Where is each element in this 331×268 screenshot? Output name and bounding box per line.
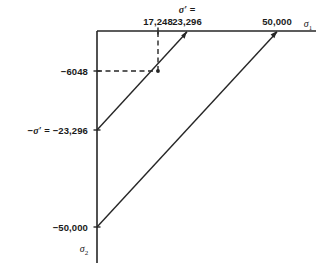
sigma-prime-value-label: 23,296 — [172, 16, 202, 27]
stress-diagram-figure: σ′ = 23,296 17,248 50,000 σ1 −6048 −σ′ =… — [0, 0, 331, 268]
load-x-label: 17,248 — [143, 16, 173, 27]
inner-failure-line — [97, 32, 187, 130]
sigma1-axis-label: σ1 — [304, 18, 313, 32]
operating-point-marker — [156, 69, 160, 73]
sigma2-axis-label: σ2 — [80, 243, 89, 257]
sigma-prime-equals-label: σ′ = — [179, 4, 196, 15]
load-y-label: −6048 — [61, 66, 88, 77]
tensile-limit-label: 50,000 — [262, 16, 292, 27]
compressive-limit-label: −50,000 — [53, 222, 88, 233]
outer-failure-line — [97, 32, 277, 227]
neg-sigma-prime-label: −σ′ = −23,296 — [28, 125, 89, 136]
diagram-canvas: σ′ = 23,296 17,248 50,000 σ1 −6048 −σ′ =… — [0, 0, 331, 268]
